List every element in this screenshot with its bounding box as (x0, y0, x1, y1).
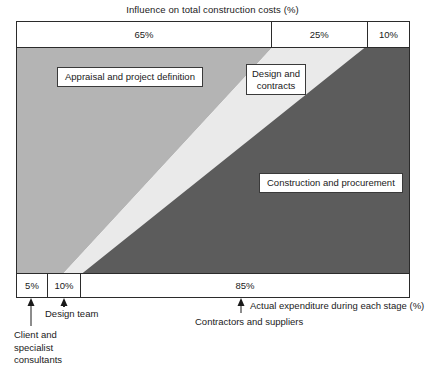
leader-contractors (238, 298, 245, 313)
influence-band-construction: 10% (368, 22, 409, 47)
callout-design-and-contracts: Design and contracts (246, 64, 306, 95)
annotation-contractors-and-suppliers: Contractors and suppliers (195, 316, 303, 329)
expenditure-band-row: 5% 10% 85% (17, 273, 409, 297)
annotation-design-team: Design team (45, 308, 98, 321)
leader-design-team-arrow (61, 298, 68, 306)
callout-appraisal-and-project-definition: Appraisal and project definition (57, 67, 203, 87)
expenditure-band-contractors: 85% (81, 274, 409, 297)
influence-band-design: 25% (272, 22, 368, 47)
callout-design-line1: Design and (252, 68, 300, 80)
annotation-client-and-specialist-consultants: Client and specialist consultants (14, 329, 62, 367)
top-caption: Influence on total construction costs (%… (0, 4, 425, 15)
influence-band-appraisal: 65% (17, 22, 272, 47)
callout-construction-and-procurement: Construction and procurement (259, 173, 403, 193)
expenditure-band-design-team: 10% (48, 274, 81, 297)
influence-band-row: 65% 25% 10% (17, 22, 409, 48)
chart-frame: 65% 25% 10% 5% 10% 85% (16, 21, 410, 298)
callout-design-line2: contracts (252, 80, 300, 92)
annotation-actual-expenditure: Actual expenditure during each stage (%) (250, 300, 424, 313)
expenditure-band-client: 5% (17, 274, 48, 297)
influence-expenditure-diagram: Influence on total construction costs (%… (0, 0, 425, 383)
leader-client (28, 298, 35, 326)
